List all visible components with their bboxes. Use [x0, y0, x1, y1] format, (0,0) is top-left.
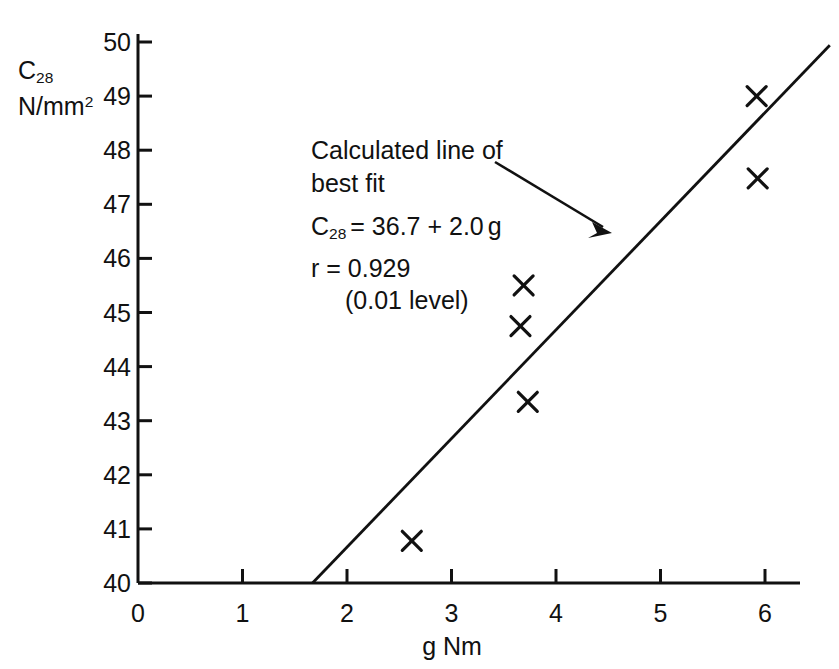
scatter-chart-figure: C28 N/mm2 g Nm 4041424344454647484950012…: [0, 0, 839, 669]
y-axis-title: C28 N/mm2: [18, 52, 93, 125]
best-fit-annotation: Calculated line of best fit C28= 36.7 + …: [311, 138, 503, 313]
y-tick-label: 46: [95, 246, 131, 271]
data-point-marker: [402, 531, 421, 550]
y-tick-label: 40: [95, 571, 131, 596]
x-tick-label: 1: [236, 601, 250, 626]
annotation-arrow: [495, 162, 612, 238]
y-axis-title-subscript: 28: [36, 69, 53, 86]
annotation-line-2: best fit: [311, 171, 503, 196]
x-tick-label: 2: [340, 601, 354, 626]
best-fit-line: [313, 45, 830, 583]
data-point-marker: [514, 276, 533, 295]
y-tick-label: 41: [95, 516, 131, 541]
equation-subscript: 28: [329, 225, 346, 242]
y-axis-title-units: N/mm2: [18, 88, 93, 124]
annotation-equation: C28= 36.7 + 2.0g: [311, 214, 503, 239]
x-tick-label: 0: [131, 601, 145, 626]
y-tick-label: 49: [95, 84, 131, 109]
y-tick-label: 48: [95, 138, 131, 163]
data-point-marker: [518, 392, 537, 411]
y-tick-label: 47: [95, 192, 131, 217]
annotation-line-1: Calculated line of: [311, 138, 503, 163]
x-tick-label: 6: [758, 601, 772, 626]
x-tick-label: 3: [445, 601, 459, 626]
data-point-marker: [511, 317, 530, 336]
annotation-correlation: r = 0.929: [311, 256, 503, 281]
fit-line-path: [313, 45, 830, 583]
y-tick-label: 43: [95, 408, 131, 433]
y-axis-title-symbol: C28: [18, 52, 93, 88]
y-axis-title-superscript: 2: [85, 93, 94, 110]
y-tick-label: 45: [95, 300, 131, 325]
x-axis-title: g Nm: [422, 634, 482, 659]
data-point-marker: [748, 169, 767, 188]
y-axis-ticks: [138, 42, 152, 583]
y-tick-label: 44: [95, 354, 131, 379]
x-tick-label: 5: [654, 601, 668, 626]
y-tick-label: 50: [95, 30, 131, 55]
y-tick-label: 42: [95, 462, 131, 487]
annotation-significance: (0.01 level): [311, 288, 503, 313]
x-tick-label: 4: [549, 601, 563, 626]
arrow-shaft: [495, 162, 603, 227]
data-point-marker: [747, 87, 766, 106]
